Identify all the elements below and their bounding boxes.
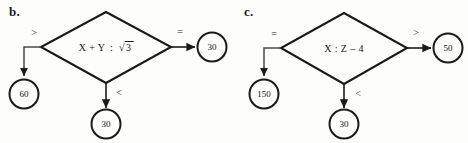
edge-label-b-left: > — [31, 27, 37, 38]
edge-left-b — [24, 47, 41, 76]
edge-left-c — [264, 48, 281, 76]
edge-label-b-bottom: < — [116, 87, 122, 98]
edge-label-b-right: = — [177, 26, 183, 37]
decision-condition-c: X : Z – 4 — [324, 43, 364, 54]
edge-label-c-bottom: < — [355, 88, 361, 99]
flowchart-panel-c: c. X : Z – 4 = < > 150 30 50 — [234, 0, 468, 143]
decision-left-operand-b: X + Y — [79, 42, 105, 53]
sqrt-icon: √3 — [118, 41, 133, 53]
terminator-value-c-right: 50 — [444, 43, 453, 53]
decision-condition-b: X + Y : √3 — [79, 41, 134, 53]
terminator-value-b-bottom: 30 — [102, 119, 111, 129]
edge-label-c-right: > — [413, 27, 419, 38]
terminator-value-c-bottom: 30 — [340, 119, 349, 129]
panel-b-graphics — [0, 0, 234, 143]
diagram-canvas: b. X + Y : √3 > < — [0, 0, 468, 143]
flowchart-panel-b: b. X + Y : √3 > < — [0, 0, 234, 143]
terminator-value-b-left: 60 — [20, 89, 29, 99]
panel-c-graphics — [234, 0, 468, 143]
terminator-value-b-right: 30 — [208, 42, 217, 52]
radicand-b: 3 — [125, 41, 133, 53]
decision-operator-b: : — [110, 42, 113, 53]
terminator-value-c-left: 150 — [257, 89, 271, 99]
edge-label-c-left: = — [271, 28, 277, 39]
